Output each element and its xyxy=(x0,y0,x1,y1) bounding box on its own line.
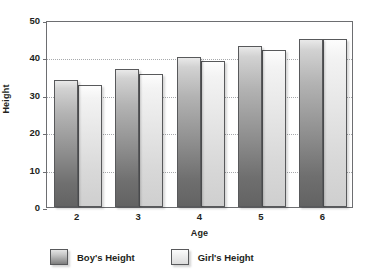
x-axis-tick-labels: 23456 xyxy=(46,212,353,228)
legend-label: Girl's Height xyxy=(198,252,254,263)
y-axis-title: Height xyxy=(1,69,11,129)
legend-label: Boy's Height xyxy=(77,252,135,263)
chart-legend: Boy's HeightGirl's Height xyxy=(46,246,353,268)
x-axis-tick-label: 4 xyxy=(180,212,220,222)
legend-entry: Girl's Height xyxy=(171,249,254,265)
legend-swatch-boy xyxy=(50,249,68,265)
bar xyxy=(238,46,262,207)
legend-entry: Boy's Height xyxy=(50,249,135,265)
y-axis-tick xyxy=(43,209,47,210)
bars-layer xyxy=(47,22,352,207)
bar xyxy=(78,85,102,207)
bar-group xyxy=(115,20,163,207)
x-axis-title: Age xyxy=(46,228,353,238)
y-axis-tick-label: 0 xyxy=(22,203,40,213)
bar-group xyxy=(54,20,102,207)
plot-area xyxy=(46,21,353,208)
y-axis-tick-label: 30 xyxy=(22,91,40,101)
y-axis-tick-label: 40 xyxy=(22,53,40,63)
bar xyxy=(115,69,139,207)
bar xyxy=(177,57,201,207)
bar-chart: Height 01020304050 23456 Age Boy's Heigh… xyxy=(0,0,370,273)
bar xyxy=(299,39,323,207)
x-axis-tick-label: 5 xyxy=(241,212,281,222)
bar xyxy=(262,50,286,207)
bar xyxy=(201,61,225,207)
x-axis-tick-label: 6 xyxy=(302,212,342,222)
bar-group xyxy=(299,20,347,207)
y-axis-tick-label: 50 xyxy=(22,16,40,26)
y-axis-tick-label: 20 xyxy=(22,128,40,138)
bar-group xyxy=(177,20,225,207)
x-axis-tick-label: 2 xyxy=(57,212,97,222)
bar xyxy=(139,74,163,207)
bar xyxy=(54,80,78,207)
y-axis-tick-labels: 01020304050 xyxy=(18,0,40,273)
bar-group xyxy=(238,20,286,207)
y-axis-tick-label: 10 xyxy=(22,166,40,176)
x-axis-tick-label: 3 xyxy=(118,212,158,222)
bar xyxy=(323,39,347,207)
legend-swatch-girl xyxy=(171,249,189,265)
